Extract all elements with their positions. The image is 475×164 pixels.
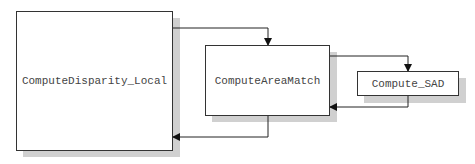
edge-sad-to-area [330, 95, 408, 107]
node-label: Compute_SAD [372, 78, 445, 90]
call-diagram: ComputeDisparity_Local ComputeAreaMatch … [0, 0, 475, 164]
node-label: ComputeDisparity_Local [22, 75, 167, 87]
node-compute-sad: Compute_SAD [357, 71, 459, 96]
edge-area-to-sad [329, 56, 408, 71]
edge-area-to-local [173, 115, 268, 137]
edge-local-to-area [172, 28, 268, 45]
node-compute-area-match: ComputeAreaMatch [205, 45, 330, 116]
node-compute-disparity-local: ComputeDisparity_Local [16, 11, 173, 151]
node-label: ComputeAreaMatch [215, 75, 321, 87]
